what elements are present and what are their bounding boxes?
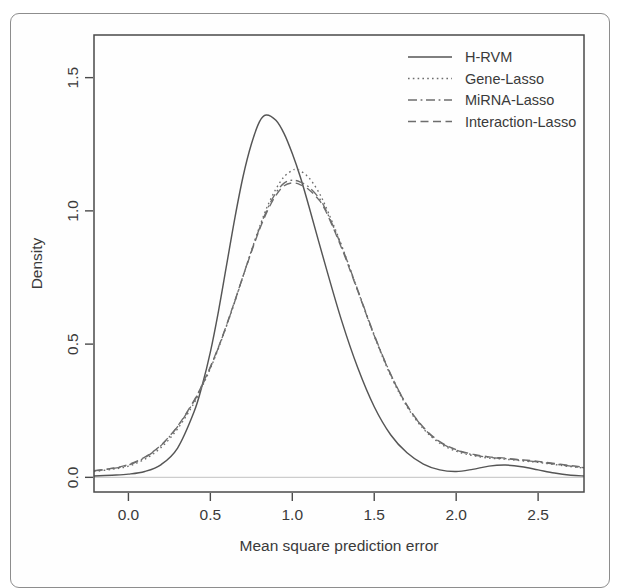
x-tick-label-0: 0.0 (118, 506, 140, 523)
y-tick-label-0: 0.0 (64, 466, 81, 488)
x-tick-label-5: 2.5 (527, 506, 549, 523)
legend-label-mirna-lasso: MiRNA-Lasso (465, 92, 554, 108)
density-curve-mirna-lasso (94, 180, 584, 471)
y-tick-label-1: 0.5 (64, 333, 81, 355)
y-tick-label-3: 1.5 (64, 67, 81, 89)
legend: H-RVMGene-LassoMiRNA-LassoInteraction-La… (408, 49, 576, 130)
density-curve-h-rvm (94, 115, 584, 476)
legend-label-h-rvm: H-RVM (465, 49, 512, 65)
density-curve-gene-lasso (94, 169, 584, 471)
x-tick-label-1: 0.5 (200, 506, 222, 523)
y-tick-label-2: 1.0 (64, 200, 81, 222)
y-axis-title: Density (28, 237, 45, 289)
legend-label-interaction-lasso: Interaction-Lasso (465, 114, 576, 130)
legend-label-gene-lasso: Gene-Lasso (465, 71, 544, 87)
x-tick-label-4: 2.0 (445, 506, 467, 523)
x-tick-label-2: 1.0 (282, 506, 304, 523)
x-axis-title: Mean square prediction error (239, 537, 438, 554)
density-curve-interaction-lasso (94, 183, 584, 471)
x-tick-label-3: 1.5 (363, 506, 385, 523)
